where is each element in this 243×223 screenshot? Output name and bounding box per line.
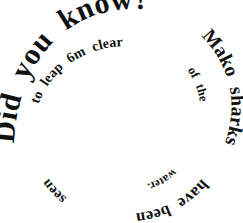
fact-word-sharks: sharks [221, 85, 243, 149]
headline-word-know: know? [52, 0, 151, 36]
fact-segment-water: water. [146, 167, 179, 193]
fact-word-to: to [27, 88, 46, 105]
fact-word-the: the [193, 82, 211, 103]
spiral-text-canvas: Did you know? Mako sharks have been seen [0, 0, 243, 223]
spiral-text-graphic: Did you know? Mako sharks have been seen [0, 0, 243, 223]
fact-word-been: been [135, 201, 174, 223]
fact-word-seen: seen [38, 176, 69, 207]
fact-word-6m: 6m [63, 43, 87, 66]
fact-word-of: of [185, 64, 203, 81]
fact-word-clear: clear [90, 34, 123, 54]
fact-word-mako: Mako [199, 25, 243, 79]
headline-word-did: Did [0, 89, 27, 144]
fact-segment-seen: seen [38, 176, 69, 207]
fact-segment-of-the: of the [185, 64, 211, 103]
headline-did-you-know: Did you know? [0, 0, 151, 144]
fact-word-have: have [174, 176, 213, 213]
fact-segment-mako-sharks: Mako sharks [199, 25, 243, 149]
fact-word-water: water. [146, 167, 179, 193]
